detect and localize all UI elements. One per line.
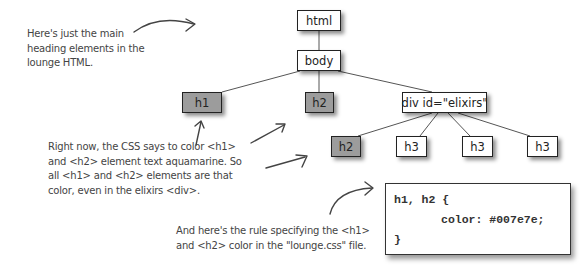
node-div-elixirs: div id="elixirs" — [402, 92, 487, 113]
css-explanation-line-4: color, even in the elixirs <div>. — [48, 184, 242, 199]
rule-line-2: and <h2> color in the "lounge.css" file. — [176, 239, 370, 254]
intro-line-2: heading elements in the — [27, 42, 144, 57]
node-h2-elixirs: h2 — [331, 136, 361, 157]
node-h3-1: h3 — [396, 136, 427, 157]
rule-line-1: And here's the rule specifying the <h1> — [176, 224, 370, 239]
intro-line-3: lounge HTML. — [27, 56, 144, 71]
css-explanation-line-1: Right now, the CSS says to color <h1> — [48, 140, 242, 155]
css-explanation-annotation: Right now, the CSS says to color <h1> an… — [48, 140, 242, 198]
code-closing-brace: } — [394, 230, 570, 250]
rule-annotation: And here's the rule specifying the <h1> … — [176, 224, 370, 253]
node-h3-3: h3 — [527, 136, 558, 157]
node-body: body — [297, 50, 341, 71]
diagram-canvas: html body h1 h2 div id="elixirs" h2 h3 h… — [0, 0, 586, 267]
css-explanation-line-2: and <h2> element text aquamarine. So — [48, 155, 242, 170]
node-h1: h1 — [182, 92, 222, 113]
css-explanation-line-3: all <h1> and <h2> elements are that — [48, 169, 242, 184]
css-rule-box: h1, h2 { color: #007e7e; } — [385, 183, 571, 255]
code-selector-line: h1, h2 { — [394, 190, 570, 210]
node-html: html — [297, 10, 341, 31]
intro-annotation: Here's just the main heading elements in… — [27, 27, 144, 71]
intro-line-1: Here's just the main — [27, 27, 144, 42]
code-declaration-line: color: #007e7e; — [394, 210, 570, 230]
node-h3-2: h3 — [462, 136, 493, 157]
node-h2-body: h2 — [305, 92, 334, 113]
